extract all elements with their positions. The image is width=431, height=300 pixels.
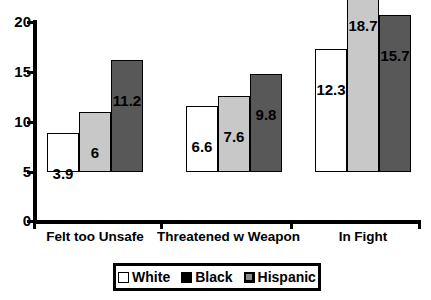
x-axis-line [33,220,421,224]
x-axis-tick-end [418,223,421,229]
bar-in-fight-white [315,49,347,172]
bar-threatened-w-weapon-hispanic [250,74,282,172]
legend-label-black: Black [195,270,232,284]
y-axis-label-10: 10 [5,114,31,129]
x-axis-category-label-0: Felt too Unsafe [35,230,155,244]
bar-felt-too-unsafe-black [79,112,111,172]
bar-value-threatened-w-weapon-hispanic: 9.8 [246,107,286,122]
bar-value-in-fight-hispanic: 15.7 [375,48,415,63]
bar-value-felt-too-unsafe-white: 3.9 [47,166,79,181]
bar-value-felt-too-unsafe-hispanic: 11.2 [107,93,147,108]
legend-item-black: Black [181,270,232,284]
bar-in-fight-hispanic [379,15,411,172]
bar-value-in-fight-white: 12.3 [311,82,351,97]
legend-swatch-white-icon [118,272,129,283]
legend-swatch-black-icon [181,272,192,283]
legend-swatch-hispanic-icon [244,272,255,283]
bar-chart: 20 15 10 5 0 3.9 6 11.2 6.6 7.6 9.8 12.3… [0,0,431,300]
chart-legend: White Black Hispanic [113,263,321,291]
bar-value-in-fight-black: 18.7 [343,18,383,33]
bar-value-felt-too-unsafe-black: 6 [79,145,111,160]
legend-item-white: White [118,270,170,284]
plot-area: 20 15 10 5 0 3.9 6 11.2 6.6 7.6 9.8 12.3… [0,0,431,250]
x-axis-category-label-2: In Fight [303,230,423,244]
legend-label-hispanic: Hispanic [258,270,316,284]
y-axis-label-15: 15 [5,64,31,79]
x-axis-category-label-1: Threatened w Weapon [157,230,297,244]
bar-value-threatened-w-weapon-black: 7.6 [214,129,254,144]
y-axis-label-5: 5 [5,164,31,179]
y-axis-label-0: 0 [5,213,31,228]
x-axis-tick-start [33,223,36,229]
y-axis-label-20: 20 [5,14,31,29]
legend-item-hispanic: Hispanic [244,270,316,284]
legend-label-white: White [132,270,170,284]
bar-felt-too-unsafe-hispanic [111,60,143,172]
